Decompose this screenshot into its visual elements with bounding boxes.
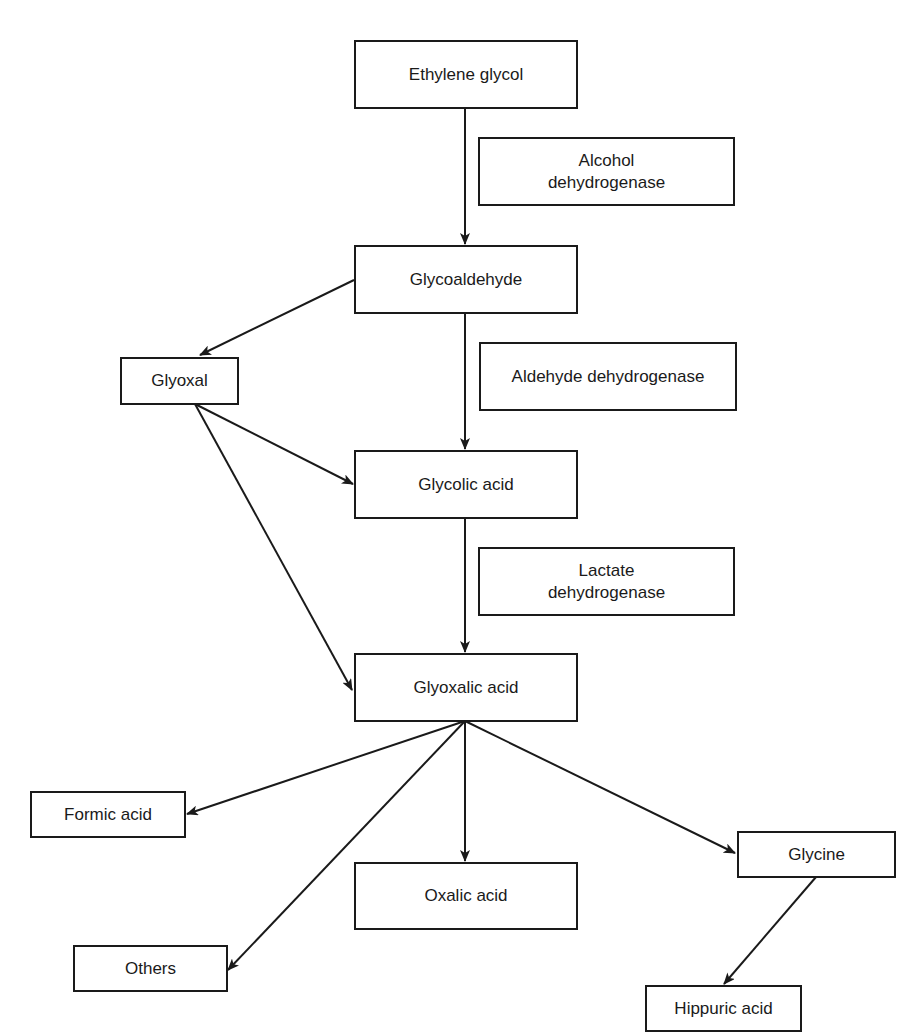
arrow-glyoxalic-to-glycine: [465, 721, 735, 853]
arrow-glycine-to-hippuric-acid: [724, 877, 816, 984]
enzyme-label-line1: Alcohol: [579, 150, 635, 172]
node-label: Glyoxal: [151, 370, 208, 392]
arrow-glyoxalic-to-formic-acid: [187, 721, 465, 814]
node-glyoxalic-acid: Glyoxalic acid: [354, 653, 578, 722]
node-oxalic-acid: Oxalic acid: [354, 862, 578, 930]
node-label: Oxalic acid: [424, 885, 507, 907]
node-label: Others: [125, 958, 176, 980]
arrow-glyoxal-to-glyoxalic-acid: [195, 404, 352, 690]
enzyme-label: Aldehyde dehydrogenase: [512, 366, 705, 388]
enzyme-aldehyde-dehydrogenase: Aldehyde dehydrogenase: [479, 342, 737, 411]
node-label: Glycolic acid: [418, 474, 513, 496]
node-label: Glycine: [788, 844, 845, 866]
node-others: Others: [73, 945, 228, 992]
node-glycoaldehyde: Glycoaldehyde: [354, 245, 578, 314]
node-ethylene-glycol: Ethylene glycol: [354, 40, 578, 109]
enzyme-lactate-dehydrogenase: Lactate dehydrogenase: [478, 547, 735, 616]
node-glycine: Glycine: [737, 831, 896, 878]
arrow-glycoaldehyde-to-glyoxal: [200, 280, 354, 355]
enzyme-alcohol-dehydrogenase: Alcohol dehydrogenase: [478, 137, 735, 206]
node-hippuric-acid: Hippuric acid: [645, 985, 802, 1032]
node-label: Glycoaldehyde: [410, 269, 522, 291]
enzyme-label-line2: dehydrogenase: [548, 172, 665, 194]
node-label: Formic acid: [64, 804, 152, 826]
enzyme-label-line1: Lactate: [579, 560, 635, 582]
node-formic-acid: Formic acid: [30, 791, 186, 838]
enzyme-label-line2: dehydrogenase: [548, 582, 665, 604]
node-label: Ethylene glycol: [409, 64, 523, 86]
node-label: Hippuric acid: [674, 998, 772, 1020]
arrow-glyoxalic-to-others: [228, 721, 465, 970]
node-glyoxal: Glyoxal: [120, 357, 239, 405]
node-label: Glyoxalic acid: [414, 677, 519, 699]
node-glycolic-acid: Glycolic acid: [354, 450, 578, 519]
arrow-glyoxal-to-glycolic-acid: [195, 404, 353, 484]
